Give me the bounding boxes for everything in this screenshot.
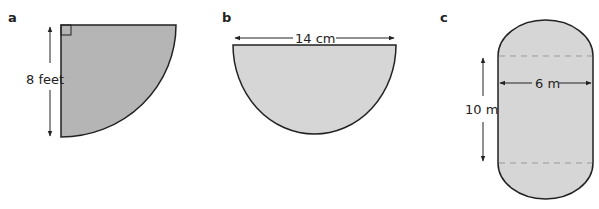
diagram-canvas: a 8 feet b 14 cm c 6 m 10 m [0,0,599,209]
height-label-c: 10 m [465,102,498,117]
stadium-shape [498,20,593,199]
part-label-a: a [8,10,17,25]
figure-b: b 14 cm [222,10,396,134]
semicircle-shape [233,45,396,134]
quarter-circle-shape [61,25,176,137]
part-label-c: c [440,10,448,25]
figure-c: c 6 m 10 m [440,10,593,199]
figure-a: a 8 feet [8,10,176,137]
width-label-c: 6 m [535,76,560,91]
dimension-label-a: 8 feet [26,72,64,87]
dimension-label-b: 14 cm [295,31,336,46]
part-label-b: b [222,10,231,25]
